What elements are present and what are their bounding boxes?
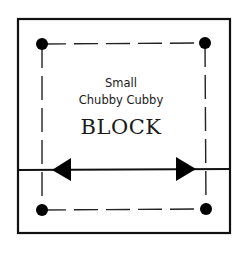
corner-dot-top-left-icon <box>36 38 48 50</box>
corner-dot-bottom-left-icon <box>36 204 48 216</box>
grainline <box>18 169 230 170</box>
corner-dot-bottom-right-icon <box>200 203 212 215</box>
arrowhead-left-icon <box>52 158 71 181</box>
label-chubby-cubby: Chubby Cubby <box>0 93 242 107</box>
title-block: BLOCK <box>0 115 242 139</box>
arrowhead-right-icon <box>176 157 196 181</box>
corner-dot-top-right-icon <box>199 37 211 49</box>
dashed-line-bottom <box>42 209 206 210</box>
label-small: Small <box>0 76 242 90</box>
dashed-line-top <box>42 43 205 44</box>
